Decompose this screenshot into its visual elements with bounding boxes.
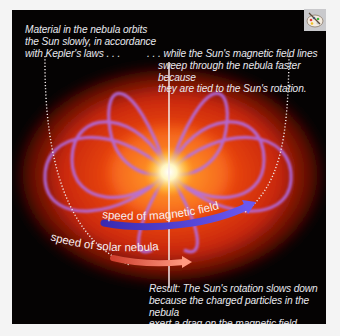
caption-line: exert a drag on the magnetic field. [149,318,326,324]
caption-result: Result: The Sun's rotation slows down be… [149,283,326,324]
caption-line: they are tied to the Sun's rotation. [121,83,326,95]
caption-line: Result: The Sun's rotation slows down [149,283,326,295]
palette-icon[interactable] [304,9,326,31]
caption-line: because the charged particles in the neb… [149,295,326,319]
caption-line: sweep through the nebula faster because [121,60,326,84]
caption-magnetic-field: . . . while the Sun's magnetic field lin… [121,48,326,95]
diagram-panel: speed of magnetic field speed of solar n… [12,10,326,324]
caption-line: Material in the nebula orbits [25,24,175,36]
caption-line: the Sun slowly, in accordance [25,36,175,48]
caption-line: . . . while the Sun's magnetic field lin… [121,48,326,60]
